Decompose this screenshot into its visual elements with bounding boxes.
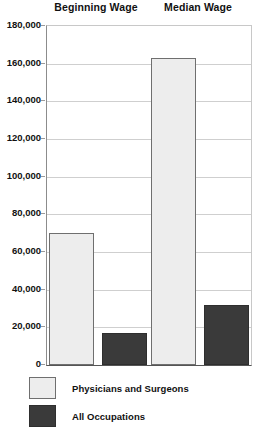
group-header-row: Beginning Wage Median Wage xyxy=(46,0,250,20)
plot-area xyxy=(46,25,252,366)
y-axis-tick-mark xyxy=(41,25,45,26)
y-axis-tick-label: 180,000 xyxy=(0,20,41,30)
y-axis-tick-label: 140,000 xyxy=(0,95,41,105)
bar xyxy=(102,333,147,365)
bar xyxy=(151,58,196,365)
y-axis-tick-mark xyxy=(41,364,45,365)
y-axis-tick-mark xyxy=(41,289,45,290)
y-axis-tick-mark xyxy=(41,176,45,177)
legend-label-all-occupations: All Occupations xyxy=(72,411,145,422)
y-axis-tick-label: 0 xyxy=(0,359,41,369)
wage-comparison-chart: Beginning Wage Median Wage 020,00040,000… xyxy=(0,0,261,440)
legend-label-physicians-and-surgeons: Physicians and Surgeons xyxy=(72,383,189,394)
y-axis-tick-label: 80,000 xyxy=(0,208,41,218)
y-axis-tick-mark xyxy=(41,63,45,64)
group-header-median-wage: Median Wage xyxy=(147,1,249,13)
y-axis-tick-mark xyxy=(41,138,45,139)
y-axis-tick-label: 60,000 xyxy=(0,246,41,256)
group-header-beginning-wage: Beginning Wage xyxy=(45,1,147,13)
y-axis-tick-label: 100,000 xyxy=(0,171,41,181)
y-axis-tick-label: 20,000 xyxy=(0,321,41,331)
y-axis-tick-mark xyxy=(41,213,45,214)
chart-legend: Physicians and Surgeons All Occupations xyxy=(29,377,251,434)
y-axis: 020,00040,00060,00080,000100,000120,0001… xyxy=(0,25,41,364)
y-axis-tick-mark xyxy=(41,326,45,327)
y-axis-tick-label: 120,000 xyxy=(0,133,41,143)
y-axis-tick-label: 160,000 xyxy=(0,58,41,68)
y-axis-tick-mark xyxy=(41,100,45,101)
legend-swatch-icon-dark xyxy=(29,405,56,427)
y-axis-tick-label: 40,000 xyxy=(0,284,41,294)
bar-series-container xyxy=(47,26,251,365)
legend-swatch-icon-light xyxy=(29,377,56,399)
bar xyxy=(204,305,249,365)
y-axis-tick-mark xyxy=(41,251,45,252)
bar xyxy=(49,233,94,365)
